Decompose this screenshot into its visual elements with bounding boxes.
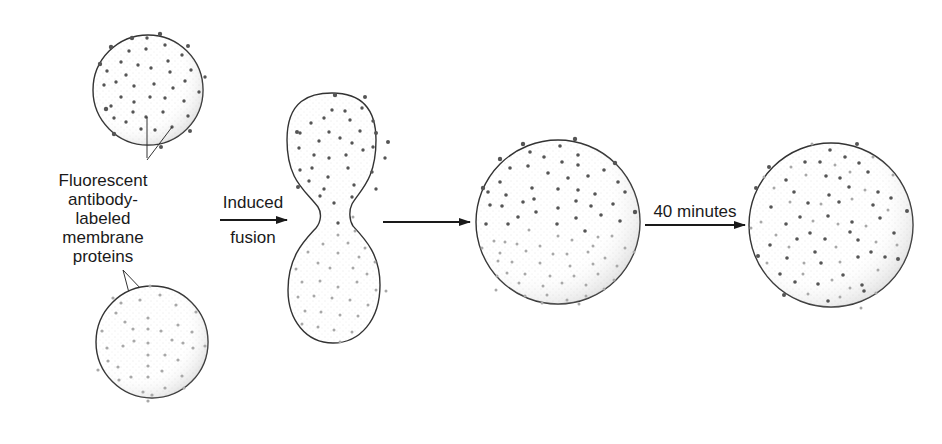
fusion-label-bottom: fusion [218,228,288,247]
proteins-label-line-5: proteins [48,247,158,266]
cell-a [93,32,207,149]
cell-b [96,284,208,402]
proteins-label-line-1: Fluorescent [48,171,158,190]
proteins-label: Fluorescent antibody- labeled membrane p… [48,171,158,266]
proteins-label-line-2: antibody- [48,190,158,209]
hybrid-cell-mixed [749,142,913,310]
hybrid-cell-segregated [476,137,640,306]
fusing-cells [287,93,390,344]
proteins-label-line-4: membrane [48,228,158,247]
time-label: 40 minutes [640,202,750,221]
fusion-label-top: Induced [218,193,288,212]
proteins-label-line-3: labeled [48,209,158,228]
